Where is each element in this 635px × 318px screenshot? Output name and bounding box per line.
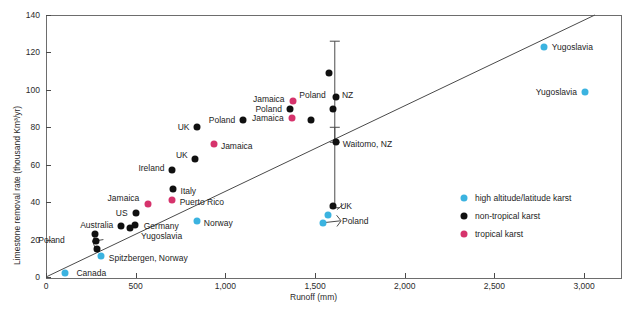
- legend-label-black: non-tropical karst: [475, 211, 540, 221]
- point-label: Poland: [255, 104, 281, 114]
- data-point: [210, 141, 217, 148]
- x-tick-label: 3,000: [573, 281, 594, 291]
- data-point: [330, 202, 337, 209]
- x-tick-label: 1,000: [215, 281, 236, 291]
- point-label: Poland: [209, 115, 235, 125]
- data-point: [288, 114, 295, 121]
- x-tick: [315, 273, 316, 278]
- data-point: [93, 245, 100, 252]
- point-label: Canada: [76, 268, 106, 278]
- data-point: [240, 116, 247, 123]
- x-tick: [584, 273, 585, 278]
- point-label: Norway: [204, 218, 233, 228]
- legend-swatch-black: [461, 213, 468, 220]
- data-point: [286, 105, 293, 112]
- point-label: Italy: [181, 186, 197, 196]
- y-tick-label: 100: [14, 85, 40, 95]
- point-label: UK: [176, 150, 188, 160]
- x-tick: [136, 273, 137, 278]
- point-label: Jamaica: [221, 141, 253, 151]
- point-label: Yugoslavia: [552, 42, 593, 52]
- point-label: Yugoslavia: [141, 231, 182, 241]
- data-point: [582, 88, 589, 95]
- x-axis-title: Runoff (mm): [290, 292, 337, 302]
- x-tick: [225, 273, 226, 278]
- x-tick-label: 0: [44, 281, 49, 291]
- y-tick: [46, 52, 51, 53]
- data-point: [118, 223, 125, 230]
- data-point: [92, 230, 99, 237]
- point-label: Poland: [299, 90, 325, 100]
- point-label: Waitomo, NZ: [343, 139, 392, 149]
- data-point: [145, 201, 152, 208]
- point-label: Spitzbergen, Norway: [109, 253, 188, 263]
- data-point: [193, 124, 200, 131]
- y-tick: [46, 202, 51, 203]
- point-label: Jamaica: [253, 94, 285, 104]
- data-point: [332, 94, 339, 101]
- plot-frame: [46, 15, 622, 279]
- data-point: [325, 70, 332, 77]
- y-tick-label: 0: [14, 272, 40, 282]
- data-point: [320, 219, 327, 226]
- y-tick: [46, 15, 51, 16]
- data-point: [308, 116, 315, 123]
- data-point: [169, 197, 176, 204]
- data-point: [61, 270, 68, 277]
- y-tick: [46, 90, 51, 91]
- x-tick-label: 1,500: [304, 281, 325, 291]
- point-label: Jamaica: [108, 193, 140, 203]
- data-point: [289, 98, 296, 105]
- y-tick: [46, 277, 51, 278]
- data-point: [540, 43, 547, 50]
- data-point: [332, 139, 339, 146]
- point-label: US: [116, 208, 128, 218]
- point-label: NZ: [342, 90, 353, 100]
- data-point: [93, 238, 100, 245]
- data-point: [324, 212, 331, 219]
- data-point: [330, 105, 337, 112]
- point-label: Puerto Rico: [180, 197, 224, 207]
- data-point: [193, 217, 200, 224]
- point-label: Jamaica: [252, 113, 284, 123]
- legend-swatch-blue: [461, 195, 468, 202]
- x-tick: [405, 273, 406, 278]
- data-point: [169, 167, 176, 174]
- point-label: UK: [340, 201, 352, 211]
- point-label: UK: [178, 122, 190, 132]
- data-point: [191, 156, 198, 163]
- point-label: Ireland: [138, 163, 164, 173]
- y-tick: [46, 240, 51, 241]
- data-point: [131, 221, 138, 228]
- y-axis-title: Limestone removal rate (thousand Km³/yr): [12, 106, 22, 265]
- data-point: [132, 210, 139, 217]
- x-tick-label: 2,500: [484, 281, 505, 291]
- point-label: Yugoslavia: [536, 87, 577, 97]
- y-tick: [46, 127, 51, 128]
- legend-label-blue: high altitude/latitude karst: [475, 193, 571, 203]
- scatter-chart-figure: CanadaSpitzbergen, NorwayPolandAustralia…: [0, 0, 635, 318]
- y-tick: [46, 165, 51, 166]
- x-tick-label: 500: [129, 281, 143, 291]
- point-label: Germany: [144, 221, 179, 231]
- point-label: Poland: [38, 235, 64, 245]
- y-tick-label: 140: [14, 10, 40, 20]
- y-tick-label: 120: [14, 47, 40, 57]
- data-point: [170, 186, 177, 193]
- legend-swatch-pink: [461, 231, 468, 238]
- data-point: [97, 253, 104, 260]
- x-tick-label: 2,000: [394, 281, 415, 291]
- x-tick: [494, 273, 495, 278]
- legend-label-pink: tropical karst: [475, 229, 523, 239]
- point-label: Poland: [342, 216, 368, 226]
- point-label: Australia: [80, 220, 113, 230]
